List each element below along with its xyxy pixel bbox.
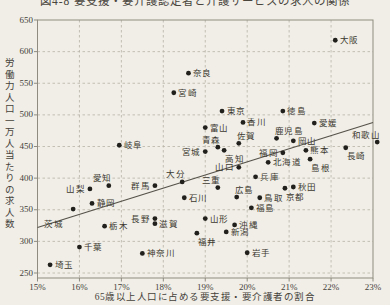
scatter-figure: 図4-8 要支援・要介護認定者と介護サービスの求人の関係 65060055050… <box>0 0 390 305</box>
point-label: 滋賀 <box>159 219 178 229</box>
data-point <box>257 195 262 200</box>
data-point <box>182 195 187 200</box>
y-axis-title: 労働力人口一万人当たりの求人数 <box>3 58 15 243</box>
point-label: 岩手 <box>252 248 271 258</box>
point-label: 島根 <box>311 163 330 173</box>
data-point <box>245 250 250 255</box>
x-tick-label: 15% <box>23 282 53 292</box>
data-point <box>180 180 185 185</box>
point-label: 北海道 <box>273 157 302 167</box>
point-label: 宮崎 <box>178 88 197 98</box>
point-label: 秋田 <box>298 182 317 192</box>
point-label: 高知 <box>225 154 244 164</box>
point-label: 福島 <box>256 203 275 213</box>
point-label: 静岡 <box>97 198 116 208</box>
data-point <box>333 38 338 43</box>
data-point <box>375 140 380 145</box>
data-point <box>274 136 279 141</box>
data-point <box>249 205 254 210</box>
point-label: 香川 <box>247 117 266 127</box>
data-point <box>215 145 220 150</box>
data-point <box>304 148 309 153</box>
point-label: 埼玉 <box>55 260 74 270</box>
data-point <box>153 183 158 188</box>
point-label: 大阪 <box>340 35 359 45</box>
point-label: 大分 <box>166 169 185 179</box>
point-label: 栃木 <box>109 221 128 231</box>
data-point <box>171 90 176 95</box>
data-point <box>236 165 241 170</box>
data-point <box>308 157 313 162</box>
point-label: 鹿児島 <box>275 126 304 136</box>
point-label: 三重 <box>202 175 221 185</box>
point-label: 京都 <box>286 192 305 202</box>
data-point <box>234 195 239 200</box>
data-point <box>140 251 145 256</box>
data-point <box>90 201 95 206</box>
data-point <box>220 109 225 114</box>
point-label: 長崎 <box>347 151 366 161</box>
data-point <box>153 216 158 221</box>
point-label: 富山 <box>210 123 229 133</box>
data-point <box>102 224 107 229</box>
data-point <box>236 141 241 146</box>
data-point <box>241 120 246 125</box>
data-point <box>186 71 191 76</box>
point-label: 奈良 <box>193 68 212 78</box>
data-point <box>291 185 296 190</box>
point-label: 千葉 <box>84 242 103 252</box>
data-point <box>280 109 285 114</box>
x-tick-label: 23% <box>358 282 388 292</box>
point-label: 熊本 <box>310 145 329 155</box>
x-axis-title: 65歳以上人口に占める要支援・要介護者の割合 <box>60 289 350 303</box>
data-point <box>77 245 82 250</box>
point-label: 佐賀 <box>237 131 256 141</box>
point-label: 愛媛 <box>319 118 338 128</box>
point-label: 宮城 <box>182 147 201 157</box>
point-label: 岐阜 <box>124 140 143 150</box>
data-point <box>224 229 229 234</box>
point-label: 福岡 <box>259 148 278 158</box>
point-label: 鳥取 <box>264 193 283 203</box>
data-point <box>106 183 111 188</box>
data-point <box>280 150 285 155</box>
point-label: 石川 <box>189 193 208 203</box>
point-label: 広島 <box>235 185 254 195</box>
point-label: 徳島 <box>287 106 306 116</box>
data-point <box>203 149 208 154</box>
point-label: 群馬 <box>131 181 150 191</box>
point-label: 神奈川 <box>147 248 176 258</box>
point-label: 和歌山 <box>352 130 381 140</box>
data-point <box>48 262 53 267</box>
data-point <box>222 148 227 153</box>
data-point <box>153 221 158 226</box>
data-point <box>291 138 296 143</box>
point-label: 兵庫 <box>260 172 279 182</box>
point-label: 山口 <box>215 162 234 172</box>
point-label: 青森 <box>202 135 221 145</box>
data-point <box>117 143 122 148</box>
point-label: 沖縄 <box>239 220 258 230</box>
point-label: 福井 <box>198 237 217 247</box>
point-label: 山梨 <box>66 184 85 194</box>
data-point <box>266 160 271 165</box>
data-point <box>194 231 199 236</box>
point-label: 東京 <box>227 106 246 116</box>
y-tick-label: 250 <box>7 268 33 278</box>
data-point <box>71 207 76 212</box>
y-tick-label: 650 <box>7 15 33 25</box>
y-tick-label: 600 <box>7 46 33 56</box>
data-point <box>312 121 317 126</box>
data-point <box>283 186 288 191</box>
point-label: 茨城 <box>44 219 63 229</box>
data-point <box>253 174 258 179</box>
point-label: 愛知 <box>93 173 112 183</box>
data-point <box>88 186 93 191</box>
point-label: 長野 <box>131 214 150 224</box>
data-point <box>203 216 208 221</box>
data-point <box>203 125 208 130</box>
point-label: 山形 <box>210 214 229 224</box>
data-point <box>343 145 348 150</box>
data-point <box>215 185 220 190</box>
